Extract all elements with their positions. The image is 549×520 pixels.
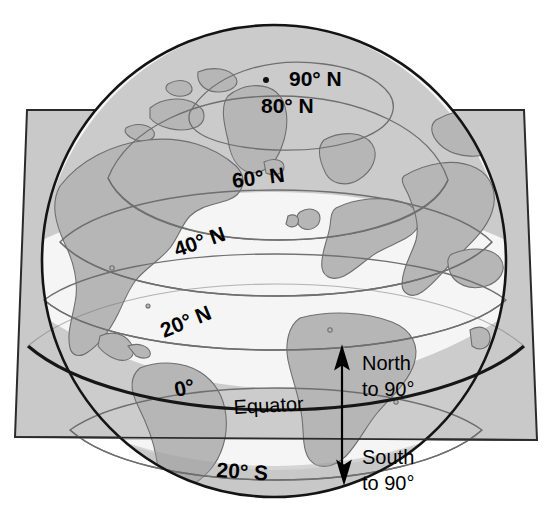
label-lat-20-s: 20° S: [216, 458, 269, 485]
landmass-ireland: [286, 215, 298, 227]
landmass-islet: [146, 304, 150, 308]
callout-north-line1: North: [362, 352, 411, 374]
callout-south-line2: to 90°: [362, 472, 414, 494]
figure-canvas: 90° N 80° N 60° N 40° N 20° N 0° 20° S E…: [0, 0, 549, 520]
globe-latitude-diagram: 90° N 80° N 60° N 40° N 20° N 0° 20° S E…: [0, 0, 549, 520]
north-pole-dot: [263, 77, 269, 83]
landmass-islet: [110, 266, 114, 270]
landmass-islet: [328, 328, 332, 332]
landmass-arctic-islands-3: [166, 81, 192, 97]
landmass-island-right: [470, 327, 490, 349]
label-equator: Equator: [233, 392, 304, 418]
callout-south-line1: South: [362, 446, 414, 468]
callout-north-line2: to 90°: [362, 378, 414, 400]
label-lat-90-n: 90° N: [289, 67, 342, 90]
label-lat-80-n: 80° N: [261, 94, 314, 117]
globe: [14, 0, 534, 520]
landmass-british-isles: [297, 209, 320, 229]
